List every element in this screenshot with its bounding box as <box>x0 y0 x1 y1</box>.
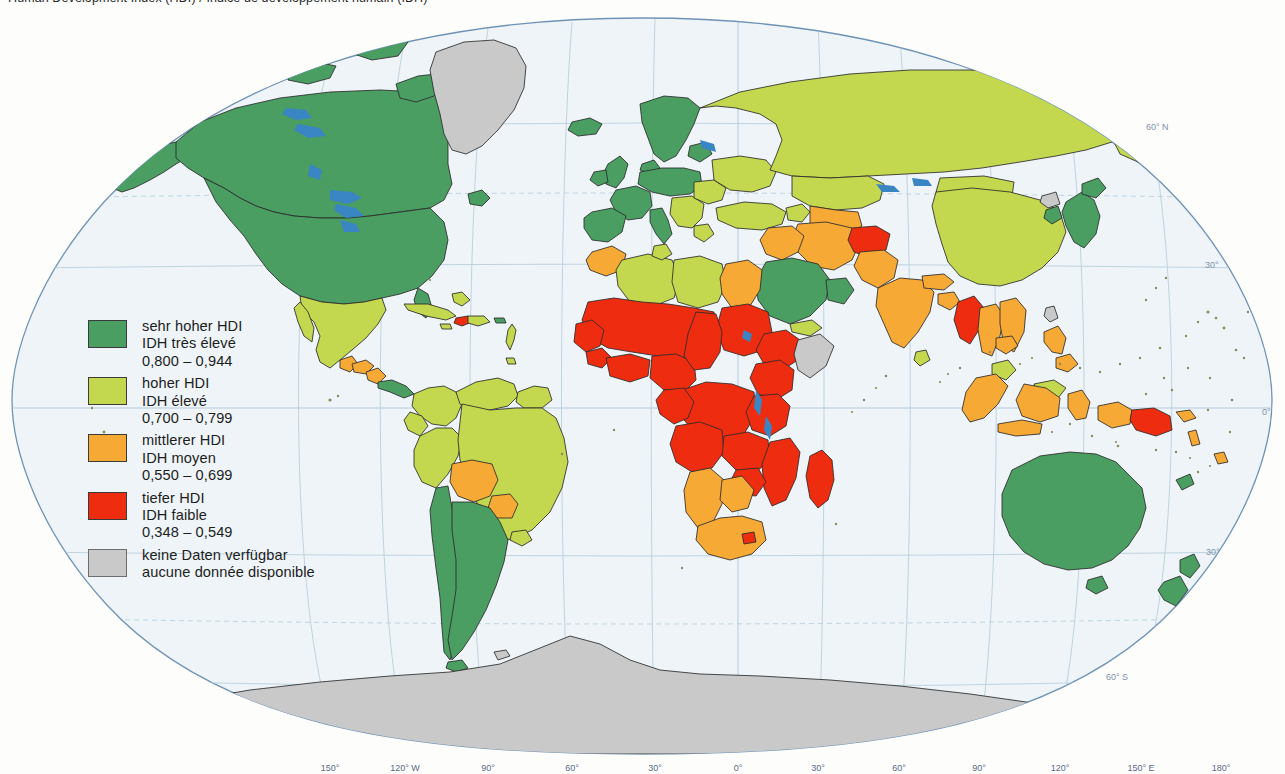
legend-label-de: mittlerer HDI <box>142 432 233 449</box>
legend-label-de: sehr hoher HDI <box>142 318 242 335</box>
page-title: Human Development Index (HDI) / Indice d… <box>8 0 428 5</box>
island-puertorico <box>494 318 506 323</box>
legend-label-de: tiefer HDI <box>142 490 233 507</box>
map-page: Human Development Index (HDI) / Indice d… <box>0 0 1285 774</box>
lon-label: 90° <box>972 763 986 773</box>
longitude-axis: 150°120° W90°60°30°0°30°60°90°120°150° E… <box>0 760 1285 774</box>
legend-label-group: mittlerer HDIIDH moyen0,550 – 0,699 <box>142 432 233 484</box>
legend-row[interactable]: keine Daten verfügbaraucune donnée dispo… <box>88 547 315 582</box>
legend-label-group: tiefer HDIIDH faible0,348 – 0,549 <box>142 490 233 542</box>
lon-label: 150° <box>321 763 340 773</box>
island-jamaica <box>440 324 452 329</box>
lon-label: 150° E <box>1127 763 1154 773</box>
lat-label-0: 0° <box>1262 407 1271 417</box>
legend-range: 0,700 – 0,799 <box>142 410 233 427</box>
legend-label-de: keine Daten verfügbar <box>142 547 315 564</box>
legend-swatch <box>88 492 127 520</box>
legend-row[interactable]: tiefer HDIIDH faible0,348 – 0,549 <box>88 490 315 542</box>
legend-swatch <box>88 549 127 577</box>
legend-label-group: keine Daten verfügbaraucune donnée dispo… <box>142 547 315 582</box>
lon-label: 30° <box>648 763 662 773</box>
legend-label-group: sehr hoher HDIIDH très élevé0,800 – 0,94… <box>142 318 242 370</box>
legend-label-group: hoher HDIIDH élevé0,700 – 0,799 <box>142 375 233 427</box>
lon-label: 30° <box>811 763 825 773</box>
lon-label: 0° <box>734 763 743 773</box>
country-libya <box>672 256 726 308</box>
legend-label-fr: IDH faible <box>142 507 233 524</box>
lon-label: 90° <box>481 763 495 773</box>
legend-row[interactable]: hoher HDIIDH élevé0,700 – 0,799 <box>88 375 315 427</box>
hdi-legend: sehr hoher HDIIDH très élevé0,800 – 0,94… <box>88 318 315 582</box>
legend-label-fr: IDH moyen <box>142 450 233 467</box>
legend-swatch <box>88 320 127 348</box>
legend-range: 0,348 – 0,549 <box>142 524 233 541</box>
legend-row[interactable]: sehr hoher HDIIDH très élevé0,800 – 0,94… <box>88 318 315 370</box>
lon-label: 60° <box>892 763 906 773</box>
country-lesotho <box>742 532 756 544</box>
lon-label: 180° <box>1212 763 1231 773</box>
lon-label: 120° W <box>390 763 420 773</box>
legend-swatch <box>88 377 127 405</box>
legend-label-fr: aucune donnée disponible <box>142 564 315 581</box>
legend-row[interactable]: mittlerer HDIIDH moyen0,550 – 0,699 <box>88 432 315 484</box>
island-banks <box>242 68 280 86</box>
legend-label-de: hoher HDI <box>142 375 233 392</box>
lon-label: 60° <box>565 763 579 773</box>
legend-label-fr: IDH très élevé <box>142 335 242 352</box>
legend-label-fr: IDH élevé <box>142 393 233 410</box>
legend-range: 0,800 – 0,944 <box>142 353 242 370</box>
island-trinidad <box>506 358 516 364</box>
lat-label-30s: 30° <box>1206 547 1220 557</box>
legend-range: 0,550 – 0,699 <box>142 467 233 484</box>
lon-label: 120° <box>1051 763 1070 773</box>
lat-label-60n: 60° N <box>1146 122 1169 132</box>
lat-label-60s: 60° S <box>1106 672 1128 682</box>
legend-swatch <box>88 434 127 462</box>
lat-label-30n: 30° <box>1205 260 1219 270</box>
